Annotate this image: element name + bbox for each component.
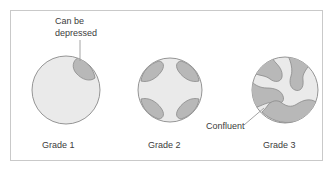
grading-diagram: Can be depressed Grade 1 Grade 2 bbox=[0, 0, 335, 173]
annotation-can-be-depressed-line1: Can be bbox=[55, 16, 84, 26]
panel-grade-3: Confluent Grade 3 bbox=[206, 55, 318, 150]
figure-root: Can be depressed Grade 1 Grade 2 bbox=[0, 0, 335, 173]
panel-grade-1: Can be depressed Grade 1 bbox=[32, 16, 100, 150]
leader-line-confluent bbox=[244, 108, 264, 125]
annotation-confluent: Confluent bbox=[206, 121, 245, 131]
annotation-can-be-depressed-line2: depressed bbox=[55, 28, 97, 38]
panel-label-grade-2: Grade 2 bbox=[148, 140, 181, 150]
panel-label-grade-3: Grade 3 bbox=[263, 140, 296, 150]
panel-grade-2: Grade 2 bbox=[138, 58, 202, 150]
panel-label-grade-1: Grade 1 bbox=[42, 140, 75, 150]
